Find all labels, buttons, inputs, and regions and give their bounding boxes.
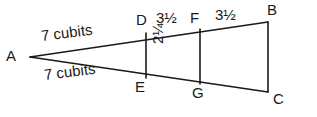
vertex-label-a: A <box>6 48 16 63</box>
vertex-label-f: F <box>190 10 199 25</box>
vertex-label-d: D <box>136 12 147 27</box>
vertex-label-g: G <box>192 85 204 100</box>
measure-label-fb: 3½ <box>215 7 236 22</box>
vertex-label-c: C <box>273 91 284 106</box>
geometry-diagram: A 7 cubits 7 cubits D 3½ F 3½ B 2¼ E G C <box>0 0 317 117</box>
measure-label-de: 2¼ <box>150 23 165 44</box>
vertex-label-b: B <box>267 2 277 17</box>
vertex-label-e: E <box>135 79 145 94</box>
